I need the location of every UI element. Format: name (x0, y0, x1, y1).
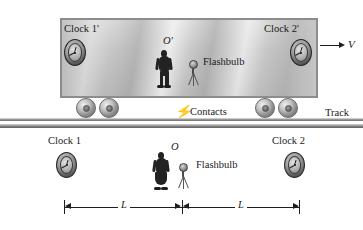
boxcar-clock-right-label: Clock 2' (264, 24, 299, 35)
flashbulb-icon-boxcar (185, 60, 201, 88)
wheel-icon (76, 98, 96, 118)
ground-observer-label: O (171, 142, 179, 153)
person-legs (155, 172, 167, 185)
right-arrow-icon (339, 42, 345, 48)
dimension-label-right: L (235, 200, 247, 211)
clock-icon-boxcar-left (64, 39, 86, 66)
person-foot-right (164, 85, 171, 88)
clock-face (68, 43, 82, 62)
clock-center-pin (66, 164, 68, 166)
boxcar-observer-figure (155, 50, 173, 90)
clock-face (294, 43, 308, 62)
ground-clock-left-label: Clock 1 (48, 136, 81, 147)
wheel-icon (278, 98, 298, 118)
boxcar-observer-label: O' (163, 36, 173, 47)
dimension-label-left: L (118, 200, 130, 211)
dimension-arrow-left-outer (65, 203, 71, 209)
figure-canvas: Clock 1' Clock 2' O' Flashbulb (0, 0, 363, 230)
clock-icon-ground-right (284, 152, 305, 178)
clock-center-pin (74, 52, 76, 54)
person-foot-left (157, 85, 164, 88)
velocity-label: V (348, 39, 355, 50)
dimension-arrow-right-outer (293, 203, 299, 209)
boxcar-flashbulb-label: Flashbulb (203, 57, 244, 68)
dimension-arrow-left-inner (175, 203, 181, 209)
person-foot-left (154, 187, 161, 190)
contacts-label: Contacts (190, 107, 227, 118)
track-rail-upper (0, 118, 363, 121)
track-rail-lower (0, 124, 363, 128)
wheel-icon (255, 98, 275, 118)
ground-observer-figure (152, 152, 170, 192)
clock-center-pin (300, 52, 302, 54)
clock-icon-ground-left (56, 152, 77, 178)
clock-face (60, 156, 74, 174)
person-torso (159, 56, 170, 71)
dimension-arrow-right-inner (183, 203, 189, 209)
dimension-tick-right (299, 200, 300, 214)
clock-face (288, 156, 302, 174)
flashbulb-icon-ground (175, 163, 191, 191)
ground-clock-right-label: Clock 2 (272, 136, 305, 147)
clock-center-pin (294, 164, 296, 166)
wheel-icon (99, 98, 119, 118)
clock-icon-boxcar-right (290, 39, 312, 66)
person-torso (156, 158, 167, 173)
person-foot-right (161, 187, 168, 190)
track-label: Track (325, 108, 349, 119)
boxcar-clock-left-label: Clock 1' (64, 24, 99, 35)
ground-flashbulb-label: Flashbulb (196, 160, 237, 171)
velocity-arrow-shaft (320, 45, 340, 46)
